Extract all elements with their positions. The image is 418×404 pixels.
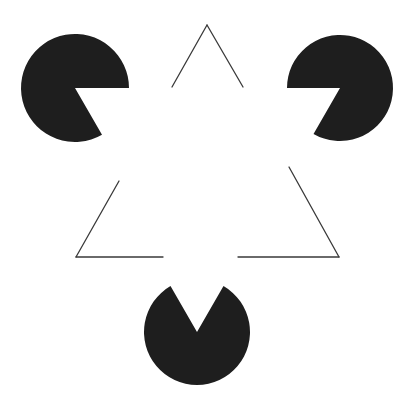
edge-apex-left	[172, 25, 207, 87]
kanizsa-figure	[0, 0, 418, 404]
pacman-top-left	[21, 34, 129, 142]
edge-bottom-right-up	[289, 167, 339, 257]
edge-apex-right	[207, 25, 243, 87]
pacman-bottom	[144, 286, 250, 385]
illusion-canvas	[0, 0, 418, 404]
pacman-top-right	[287, 35, 393, 141]
pacmen-group	[21, 34, 393, 385]
edge-bottom-left-up	[76, 181, 119, 257]
